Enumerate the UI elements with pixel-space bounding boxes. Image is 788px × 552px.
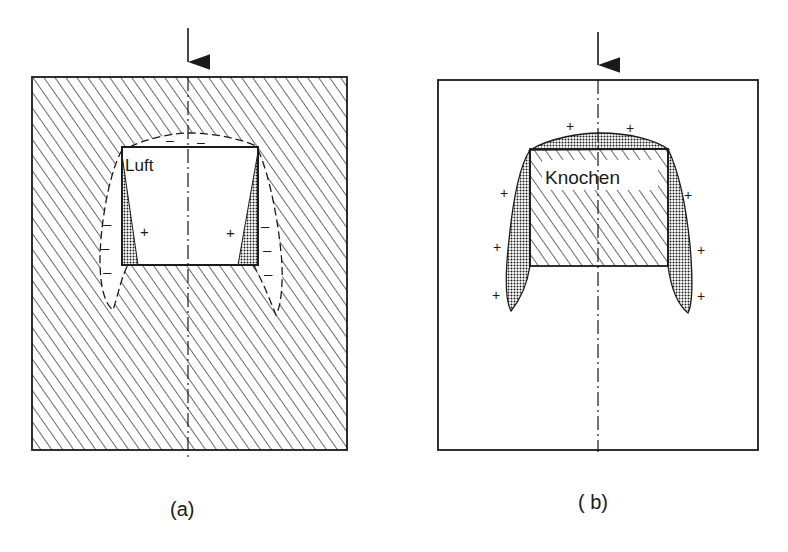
sign-right-3-b: + <box>697 288 705 304</box>
panel-b: Knochen + + + + + + + + ( b) <box>438 32 758 513</box>
sign-left-1-b: + <box>500 185 508 201</box>
stress-diagram: Luft – – + + – – – – – – (a) Knochen + +… <box>0 0 788 552</box>
sign-left-2-b: + <box>493 239 501 255</box>
inclusion-label-knochen: Knochen <box>545 167 620 188</box>
sign-right-1-b: + <box>684 187 692 203</box>
sign-top-2-b: + <box>626 120 634 136</box>
sign-top-2: – <box>197 134 205 150</box>
sign-inner-left: + <box>140 223 149 240</box>
caption-b: ( b) <box>578 491 608 513</box>
sign-outer-left-1: – <box>103 215 112 232</box>
sign-outer-left-2: – <box>101 239 110 256</box>
sign-inner-right: + <box>226 224 235 241</box>
sign-outer-right-2: – <box>263 241 272 258</box>
sign-left-3-b: + <box>492 287 500 303</box>
inclusion-label-luft: Luft <box>125 156 154 175</box>
sign-outer-right-1: – <box>261 217 270 234</box>
sign-outer-right-3: – <box>264 265 273 282</box>
sign-outer-left-3: – <box>103 263 112 280</box>
sign-top-1-b: + <box>566 118 574 134</box>
sign-right-2-b: + <box>697 242 705 258</box>
panel-a: Luft – – + + – – – – – – (a) <box>32 28 347 520</box>
sign-top-1: – <box>166 132 174 148</box>
caption-a: (a) <box>170 498 194 520</box>
